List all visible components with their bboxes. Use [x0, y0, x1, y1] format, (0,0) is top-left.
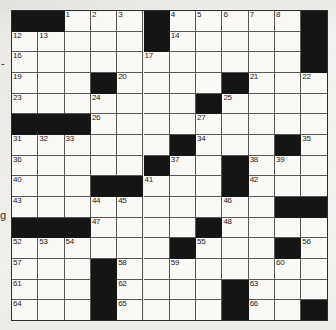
crossword-cell[interactable]	[170, 176, 196, 197]
crossword-cell[interactable]	[275, 52, 301, 73]
crossword-cell[interactable]	[144, 300, 170, 321]
crossword-cell[interactable]	[170, 218, 196, 239]
crossword-cell[interactable]: 24	[91, 94, 117, 115]
crossword-cell[interactable]: 3	[117, 11, 143, 32]
crossword-cell[interactable]: 27	[196, 114, 222, 135]
crossword-cell[interactable]: 44	[91, 197, 117, 218]
crossword-cell[interactable]: 13	[38, 32, 64, 53]
crossword-cell[interactable]	[38, 259, 64, 280]
crossword-cell[interactable]	[65, 300, 91, 321]
crossword-cell[interactable]: 4	[170, 11, 196, 32]
crossword-cell[interactable]: 63	[249, 280, 275, 301]
crossword-cell[interactable]: 35	[301, 135, 327, 156]
crossword-cell[interactable]	[144, 73, 170, 94]
crossword-cell[interactable]	[65, 176, 91, 197]
crossword-cell[interactable]	[196, 32, 222, 53]
crossword-cell[interactable]	[249, 259, 275, 280]
crossword-cell[interactable]: 60	[275, 259, 301, 280]
crossword-cell[interactable]	[301, 176, 327, 197]
crossword-cell[interactable]	[275, 300, 301, 321]
crossword-cell[interactable]: 20	[117, 73, 143, 94]
crossword-cell[interactable]	[38, 73, 64, 94]
crossword-cell[interactable]	[275, 218, 301, 239]
crossword-cell[interactable]	[117, 32, 143, 53]
crossword-cell[interactable]: 17	[144, 52, 170, 73]
crossword-cell[interactable]: 47	[91, 218, 117, 239]
crossword-cell[interactable]: 5	[196, 11, 222, 32]
crossword-cell[interactable]	[170, 197, 196, 218]
crossword-cell[interactable]	[222, 238, 248, 259]
crossword-cell[interactable]	[249, 94, 275, 115]
crossword-cell[interactable]: 8	[275, 11, 301, 32]
crossword-cell[interactable]	[65, 156, 91, 177]
crossword-cell[interactable]	[144, 218, 170, 239]
crossword-cell[interactable]	[91, 135, 117, 156]
crossword-cell[interactable]: 26	[91, 114, 117, 135]
crossword-cell[interactable]	[196, 73, 222, 94]
crossword-cell[interactable]	[301, 94, 327, 115]
crossword-cell[interactable]: 64	[12, 300, 38, 321]
crossword-cell[interactable]	[301, 218, 327, 239]
crossword-cell[interactable]: 55	[196, 238, 222, 259]
crossword-cell[interactable]: 56	[301, 238, 327, 259]
crossword-cell[interactable]	[38, 94, 64, 115]
crossword-cell[interactable]: 40	[12, 176, 38, 197]
crossword-cell[interactable]: 45	[117, 197, 143, 218]
crossword-cell[interactable]: 62	[117, 280, 143, 301]
crossword-cell[interactable]	[65, 73, 91, 94]
crossword-cell[interactable]	[275, 114, 301, 135]
crossword-cell[interactable]: 25	[222, 94, 248, 115]
crossword-cell[interactable]	[222, 32, 248, 53]
crossword-cell[interactable]: 16	[12, 52, 38, 73]
crossword-cell[interactable]	[249, 32, 275, 53]
crossword-cell[interactable]	[275, 32, 301, 53]
crossword-cell[interactable]: 65	[117, 300, 143, 321]
crossword-cell[interactable]	[249, 238, 275, 259]
crossword-cell[interactable]	[91, 32, 117, 53]
crossword-cell[interactable]: 54	[65, 238, 91, 259]
crossword-cell[interactable]	[38, 52, 64, 73]
crossword-cell[interactable]	[301, 280, 327, 301]
crossword-cell[interactable]: 31	[12, 135, 38, 156]
crossword-cell[interactable]	[117, 94, 143, 115]
crossword-cell[interactable]	[38, 300, 64, 321]
crossword-cell[interactable]	[275, 280, 301, 301]
crossword-cell[interactable]	[170, 94, 196, 115]
crossword-cell[interactable]	[144, 238, 170, 259]
crossword-cell[interactable]	[170, 280, 196, 301]
crossword-cell[interactable]	[275, 73, 301, 94]
crossword-cell[interactable]	[38, 280, 64, 301]
crossword-cell[interactable]	[249, 135, 275, 156]
crossword-cell[interactable]: 38	[249, 156, 275, 177]
crossword-cell[interactable]: 12	[12, 32, 38, 53]
crossword-cell[interactable]: 46	[222, 197, 248, 218]
crossword-cell[interactable]	[222, 114, 248, 135]
crossword-cell[interactable]	[144, 259, 170, 280]
crossword-cell[interactable]	[144, 94, 170, 115]
crossword-cell[interactable]	[38, 176, 64, 197]
crossword-grid[interactable]: 1234567812131416171920212223242526273132…	[11, 10, 328, 321]
crossword-cell[interactable]	[196, 280, 222, 301]
crossword-cell[interactable]: 66	[249, 300, 275, 321]
crossword-cell[interactable]	[38, 156, 64, 177]
crossword-cell[interactable]	[91, 156, 117, 177]
crossword-cell[interactable]: 34	[196, 135, 222, 156]
crossword-cell[interactable]	[117, 156, 143, 177]
crossword-cell[interactable]: 53	[38, 238, 64, 259]
crossword-cell[interactable]	[117, 238, 143, 259]
crossword-cell[interactable]	[196, 176, 222, 197]
crossword-cell[interactable]	[222, 135, 248, 156]
crossword-cell[interactable]	[196, 52, 222, 73]
crossword-cell[interactable]	[196, 300, 222, 321]
crossword-cell[interactable]: 52	[12, 238, 38, 259]
crossword-cell[interactable]	[117, 218, 143, 239]
crossword-cell[interactable]	[196, 156, 222, 177]
crossword-cell[interactable]	[275, 94, 301, 115]
crossword-cell[interactable]: 43	[12, 197, 38, 218]
crossword-cell[interactable]: 22	[301, 73, 327, 94]
crossword-cell[interactable]	[275, 176, 301, 197]
crossword-cell[interactable]	[249, 114, 275, 135]
crossword-cell[interactable]: 48	[222, 218, 248, 239]
crossword-cell[interactable]: 37	[170, 156, 196, 177]
crossword-cell[interactable]	[144, 197, 170, 218]
